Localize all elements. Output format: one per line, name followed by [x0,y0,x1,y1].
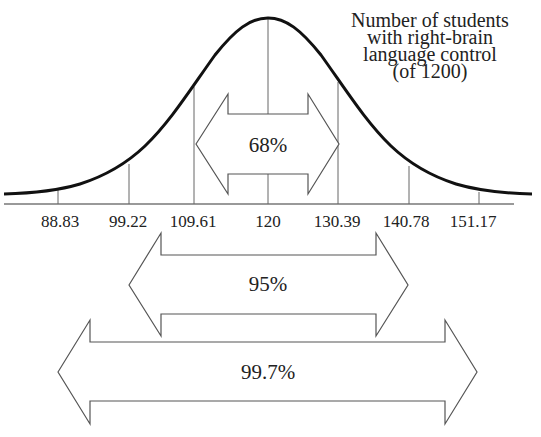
tick-label: 120 [255,212,281,232]
tick-label: 140.78 [383,212,430,232]
tick-label: 99.22 [109,212,147,232]
tick-label: 151.17 [450,212,497,232]
title-line: (of 1200) [325,63,535,80]
tick-label: 130.39 [314,212,361,232]
tick-label: 109.61 [170,212,217,232]
interval-95-label: 95% [249,272,288,297]
interval-99-7-label: 99.7% [241,360,295,385]
chart-title: Number of students with right-brain lang… [325,12,535,80]
interval-68-label: 68% [249,133,288,158]
tick-label: 88.83 [41,212,79,232]
